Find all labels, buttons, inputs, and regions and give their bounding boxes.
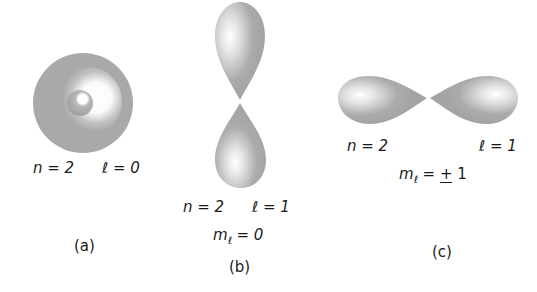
label-b-m: mℓ = 0 xyxy=(213,228,263,246)
label-c-m-prefix: m xyxy=(399,165,414,183)
label-b-m-value: = 0 xyxy=(232,226,264,244)
spherical-orbital-a xyxy=(33,53,133,153)
label-c-l: ℓ = 1 xyxy=(479,139,517,154)
label-c-n: n = 2 xyxy=(347,139,388,154)
caption-b: (b) xyxy=(229,260,250,275)
label-c-m: mℓ = + 1 xyxy=(399,167,467,185)
label-a-l: ℓ = 0 xyxy=(102,161,140,176)
plus-minus-plus: + xyxy=(440,165,453,183)
horizontal-lobes-c xyxy=(338,76,518,124)
plus-minus-symbol: + xyxy=(440,167,453,182)
label-c-m-value: 1 xyxy=(452,165,466,183)
plus-minus-underline xyxy=(440,182,453,183)
caption-a: (a) xyxy=(74,239,95,254)
caption-c: (c) xyxy=(432,245,452,260)
label-b-m-prefix: m xyxy=(213,226,228,244)
label-b-n: n = 2 xyxy=(183,200,224,215)
vertical-lobes-b xyxy=(215,2,266,188)
label-c-m-eq: = xyxy=(418,165,440,183)
label-a-n: n = 2 xyxy=(33,161,74,176)
label-b-l: ℓ = 1 xyxy=(252,200,290,215)
